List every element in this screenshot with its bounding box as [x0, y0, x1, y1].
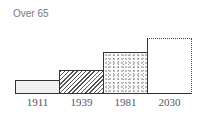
x-label-1911: 1911: [15, 96, 60, 108]
x-label-1981: 1981: [103, 96, 148, 108]
bar-1939: [59, 70, 104, 94]
bar-1911: [15, 80, 60, 94]
x-label-2030: 2030: [147, 96, 192, 108]
chart-title: Over 65: [13, 8, 49, 19]
bar-1981: [103, 52, 148, 94]
x-label-1939: 1939: [59, 96, 104, 108]
bar-2030: [147, 38, 192, 94]
